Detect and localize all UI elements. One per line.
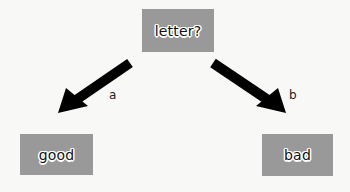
diagram-canvas: letter? a b good bad: [0, 0, 350, 192]
edge-label-b: b: [289, 88, 297, 102]
good-node-label: good: [39, 147, 75, 163]
arrow-right-icon: [213, 63, 286, 113]
root-node: letter?: [142, 9, 214, 52]
bad-node: bad: [262, 134, 333, 176]
bad-node-label: bad: [284, 147, 311, 163]
root-node-label: letter?: [155, 23, 202, 39]
arrow-left-icon: [58, 63, 130, 113]
good-node: good: [20, 134, 93, 175]
edge-label-a: a: [109, 88, 116, 102]
